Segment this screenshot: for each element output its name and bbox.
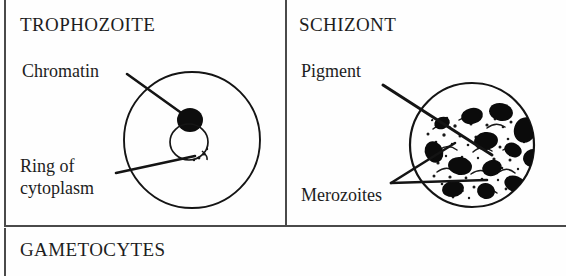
leader-line-ring-of-cytoplasm <box>116 156 195 173</box>
label-chromatin: Chromatin <box>22 60 99 82</box>
merozoite-blob <box>421 138 447 166</box>
panel-title-gametocytes: GAMETOCYTES <box>20 239 166 261</box>
cytoplasm-ring-icon <box>170 124 208 160</box>
merozoite-blob <box>521 147 545 170</box>
merozoite-blob <box>473 130 499 151</box>
red-cell-outline-icon <box>124 72 260 208</box>
merozoite-blob <box>480 157 504 178</box>
label-ring-line2: cytoplasm <box>20 178 94 198</box>
merozoite-blob <box>475 181 496 201</box>
merozoite-blob <box>460 106 485 126</box>
panel-title-schizont: SCHIZONT <box>299 14 396 36</box>
leader-line-pigment <box>383 85 492 155</box>
merozoite-blob <box>502 172 528 195</box>
merozoite-blob <box>447 155 473 176</box>
label-ring-of-cytoplasm: Ring ofcytoplasm <box>20 155 94 199</box>
red-cell-outline-icon <box>410 83 534 207</box>
panel-schizont: SCHIZONT Pigment Merozoites <box>287 0 566 225</box>
ring-stipple-2-icon <box>198 157 201 160</box>
label-pigment: Pigment <box>301 60 361 82</box>
cytoplasm-stipple-mass-icon <box>427 115 526 200</box>
label-merozoites: Merozoites <box>301 184 382 206</box>
ring-stipple-3-icon <box>193 159 195 161</box>
merozoite-blob <box>502 140 524 160</box>
ring-stipple-4-icon <box>206 148 208 150</box>
chromatin-dot-icon <box>177 108 203 132</box>
leader-line-merozoites-upper <box>391 143 455 183</box>
merozoite-cluster-icon <box>421 101 545 201</box>
merozoite-blob <box>488 101 515 123</box>
ring-stipple-1-icon <box>203 153 206 156</box>
panel-trophozoite: TROPHOZOITE Chromatin Ring ofcytoplasm <box>6 0 285 225</box>
leader-line-merozoites-lower <box>391 180 487 183</box>
malaria-stages-figure: TROPHOZOITE Chromatin Ring ofcytoplasm S… <box>0 0 566 276</box>
label-ring-line1: Ring of <box>20 156 75 176</box>
leader-line-chromatin <box>127 74 187 117</box>
panel-title-trophozoite: TROPHOZOITE <box>20 14 155 36</box>
merozoite-blob <box>432 115 451 132</box>
panel-gametocytes: GAMETOCYTES <box>6 227 566 276</box>
merozoite-blob <box>441 180 465 198</box>
cytoplasm-ring-tail-icon <box>202 151 207 160</box>
merozoite-blob <box>511 114 540 146</box>
